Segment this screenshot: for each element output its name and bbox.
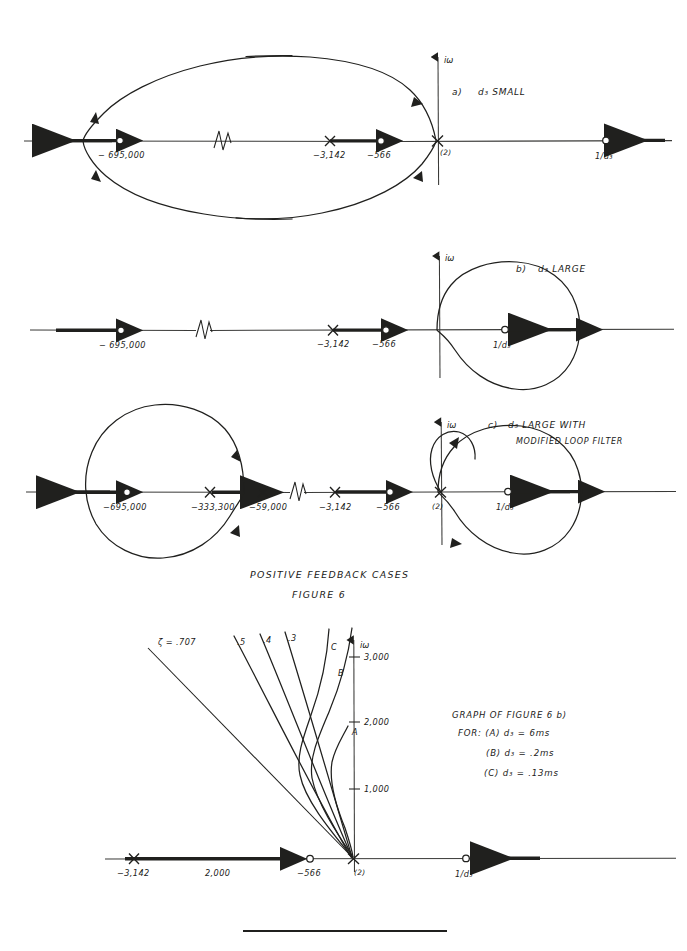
graph-imaginary-axis [354,640,355,872]
graph-note-line2: FOR: (A) d₃ = 6ms [458,728,550,738]
graph-axis-label: iω [360,640,369,650]
graph-note-line3: (B) d₃ = .2ms [486,748,554,758]
graph-panel-plot: iω 3,000 2,000 1,000 ζ = .707 .5 .4 .3 C… [0,0,687,951]
graph-branch-label-04: .4 [263,635,272,645]
graph-label-pole-3142: −3,142 [117,868,150,878]
graph-marker-zero-inv-d3 [463,855,470,862]
graph-branch-label-05: .5 [237,637,246,647]
graph-branch-label-B: B [338,668,344,678]
graph-tick-label-3000: 3,000 [364,652,389,662]
graph-branch-label-A: A [351,727,358,737]
graph-marker-zero-566 [307,855,314,862]
graph-note-line1: GRAPH OF FIGURE 6 b) [452,710,567,720]
graph-label-zero-inv-d3: 1/d₃ [455,869,473,879]
figure-sheet: iω − 695,000 −3,142 −566 (2) [0,0,687,951]
graph-damping-ray-label: ζ = .707 [157,637,196,647]
graph-label-pole-origin: (2) [354,868,365,877]
graph-label-span-2000: 2,000 [205,868,230,878]
graph-branch-A [331,726,353,857]
graph-branch-label-C: C [331,642,337,652]
graph-tick-label-2000: 2,000 [364,717,389,727]
graph-branch-ray-05 [234,636,351,857]
graph-label-zero-566: −566 [297,868,321,878]
bottom-horizontal-rule [243,930,447,932]
graph-note-line4: (C) d₃ = .13ms [484,768,559,778]
graph-branch-C [299,629,352,857]
graph-tick-label-1000: 1,000 [364,784,389,794]
graph-branch-label-03: .3 [288,633,297,643]
